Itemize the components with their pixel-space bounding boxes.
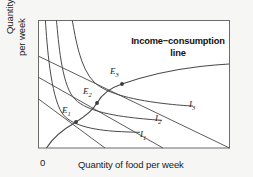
- y-axis-label-line-2: per week: [16, 18, 28, 56]
- x-axis-label: Quantity of food per week: [78, 159, 184, 170]
- income-consumption-chart: [0, 0, 253, 177]
- equilibrium-point-E2: [95, 101, 99, 105]
- equilibrium-point-E3: [120, 82, 124, 86]
- label-equilibrium-E3: E3: [110, 66, 119, 78]
- y-axis-label-line-1: Quantity of clothing: [4, 0, 16, 34]
- equilibrium-point-E1: [74, 120, 78, 124]
- origin-label: 0: [40, 157, 45, 168]
- label-indifference-I3: I3: [189, 99, 195, 111]
- label-indifference-I2: I2: [155, 113, 161, 125]
- label-equilibrium-E2: E2: [83, 86, 92, 98]
- annotation-line-2: line: [170, 48, 185, 58]
- chart-annotation-title: Income−consumption line: [127, 36, 229, 59]
- annotation-line-1: Income−consumption: [131, 36, 225, 46]
- label-equilibrium-E1: E1: [62, 105, 71, 117]
- y-axis-label: Quantity of clothing per week: [4, 22, 36, 147]
- label-indifference-I1: I1: [140, 129, 146, 141]
- figure-container: Income−consumption line Quantity of clot…: [0, 0, 253, 177]
